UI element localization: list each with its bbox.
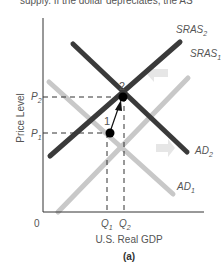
panel-label: (a) [123,251,135,262]
y-axis-title: Price Level [15,93,26,142]
equilibrium-point-1 [106,129,115,138]
p2-label: P2 [31,91,42,104]
origin-label: 0 [34,218,40,229]
point-2-label: 2 [119,80,125,92]
q1-label: Q1 [101,218,113,231]
ad1-label: AD1 [176,181,195,194]
sras2-label: SRAS2 [176,24,207,37]
sras1-label: SRAS1 [190,48,221,61]
p1-label: P1 [31,128,42,141]
ad2-label: AD2 [194,145,213,158]
x-axis-title: U.S. Real GDP [95,234,163,245]
equilibrium-point-2 [119,93,128,102]
point-1-label: 1 [104,115,110,127]
q2-label: Q2 [119,218,131,231]
ad-as-diagram: 1 2 SRAS2 SRAS1 AD2 AD1 P2 P1 Q1 Q2 0 U.… [0,0,223,275]
ad-shift-arrow-icon [156,139,175,157]
